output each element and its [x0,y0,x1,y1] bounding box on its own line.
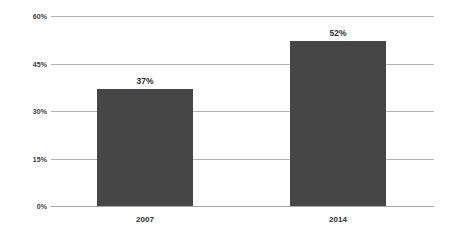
plot-area: 37% 52% [51,16,434,206]
y-tick-label-30: 30% [7,108,47,115]
bar-chart: 60% 45% 30% 15% 0% 37% 52% 2007 2014 [0,0,456,241]
y-tick-label-15: 15% [7,155,47,162]
gridline-60 [51,16,434,17]
y-tick-label-0: 0% [7,203,47,210]
y-tick-label-45: 45% [7,60,47,67]
bar-value-2014: 52% [290,29,386,38]
x-tick-label-2007: 2007 [97,216,193,224]
bar-2014[interactable] [290,41,386,206]
y-axis: 60% 45% 30% 15% 0% [0,0,47,241]
bar-2007[interactable] [97,89,193,206]
bar-value-2007: 37% [97,76,193,85]
y-tick-label-60: 60% [7,13,47,20]
x-tick-label-2014: 2014 [290,216,386,224]
axis-baseline [51,206,434,207]
